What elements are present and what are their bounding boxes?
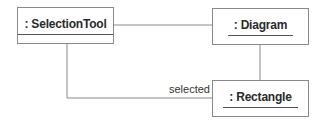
object-rectangle[interactable]: : Rectangle bbox=[212, 80, 309, 117]
object-label: : SelectionTool bbox=[18, 17, 112, 35]
object-label: : Rectangle bbox=[223, 90, 297, 108]
object-label: : Diagram bbox=[228, 18, 294, 36]
object-diagram[interactable]: : Diagram bbox=[212, 8, 309, 45]
object-selection-tool[interactable]: : SelectionTool bbox=[17, 7, 114, 44]
link-role-label-selected: selected bbox=[169, 83, 210, 95]
